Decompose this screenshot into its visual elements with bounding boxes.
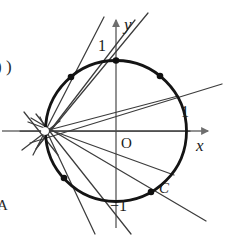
figure-canvas: ) ) 1 y 1 x O −1 C A: [0, 0, 226, 235]
point-lower-left: [61, 175, 68, 182]
chord-10: [40, 117, 95, 234]
point-lower-right: [148, 189, 155, 196]
y-axis-label: y: [124, 16, 132, 33]
left-edge-text-fragment: ) ): [0, 58, 12, 75]
origin-label: O: [121, 136, 132, 151]
x-axis-label: x: [196, 137, 204, 154]
tick-label-y-negative-one: −1: [110, 198, 127, 214]
pencil-vertex-point: [41, 127, 48, 134]
bottom-left-text-fragment: A: [0, 198, 8, 213]
point-top: [113, 57, 120, 64]
tick-label-y-one: 1: [98, 38, 106, 54]
marked-points-group: [61, 57, 164, 195]
point-upper-right: [157, 73, 164, 80]
curve-label-c: C: [159, 181, 169, 196]
tick-label-x-one: 1: [181, 104, 189, 120]
point-upper-left: [68, 74, 75, 81]
chord-7: [28, 122, 174, 175]
